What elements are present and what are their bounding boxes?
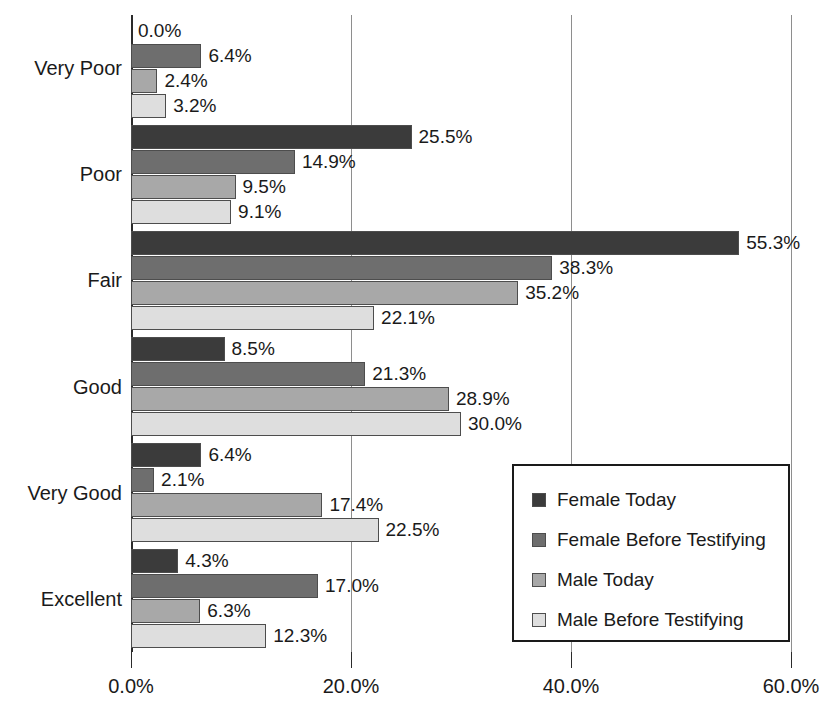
- legend-swatch-icon: [532, 493, 546, 507]
- category-label: Excellent: [2, 587, 122, 611]
- bar-group: 55.3%38.3%35.2%22.1%: [131, 231, 791, 331]
- bar-value-label: 3.2%: [173, 95, 216, 117]
- bar: [131, 175, 236, 199]
- bar-value-label: 35.2%: [525, 282, 579, 304]
- bar: [131, 44, 201, 68]
- legend-swatch-icon: [532, 613, 546, 627]
- bar: [131, 549, 178, 573]
- bar-group: 8.5%21.3%28.9%30.0%: [131, 337, 791, 437]
- bar-group: 25.5%14.9%9.5%9.1%: [131, 125, 791, 225]
- category-label: Very Good: [2, 481, 122, 505]
- bar-value-label: 22.1%: [381, 307, 435, 329]
- category-label: Good: [2, 375, 122, 399]
- bar-row: 21.3%: [131, 362, 791, 386]
- legend-swatch-icon: [532, 533, 546, 547]
- bar-group: 0.0%6.4%2.4%3.2%: [131, 19, 791, 119]
- legend-item[interactable]: Female Today: [532, 480, 788, 520]
- bar: [131, 231, 739, 255]
- bar-row: 6.4%: [131, 44, 791, 68]
- axis-tick: [791, 652, 792, 668]
- axis-tick: [131, 652, 132, 668]
- bar: [131, 443, 201, 467]
- bar-value-label: 6.4%: [208, 444, 251, 466]
- bar-value-label: 2.1%: [161, 469, 204, 491]
- legend-label: Female Today: [557, 489, 676, 511]
- axis-tick-label: 40.0%: [543, 674, 600, 698]
- bar: [131, 387, 449, 411]
- legend-item[interactable]: Female Before Testifying: [532, 520, 788, 560]
- bar-value-label: 17.4%: [329, 494, 383, 516]
- category-label: Very Poor: [2, 56, 122, 80]
- bar-row: 22.1%: [131, 306, 791, 330]
- legend-label: Male Before Testifying: [557, 609, 744, 631]
- bar: [131, 150, 295, 174]
- bar-row: 25.5%: [131, 125, 791, 149]
- bar-value-label: 30.0%: [468, 413, 522, 435]
- bar: [131, 200, 231, 224]
- legend-label: Male Today: [557, 569, 654, 591]
- bar-row: 9.1%: [131, 200, 791, 224]
- bar-row: 2.4%: [131, 69, 791, 93]
- value-axis: 0.0%20.0%40.0%60.0%: [0, 652, 837, 712]
- bar: [131, 281, 518, 305]
- bar: [131, 468, 154, 492]
- bar-value-label: 55.3%: [746, 232, 800, 254]
- bar: [131, 69, 157, 93]
- bar: [131, 306, 374, 330]
- bar-value-label: 8.5%: [232, 338, 275, 360]
- axis-tick: [351, 652, 352, 668]
- bar-row: 30.0%: [131, 412, 791, 436]
- bar-value-label: 28.9%: [456, 388, 510, 410]
- bar: [131, 412, 461, 436]
- bar-value-label: 0.0%: [138, 20, 181, 42]
- gridline-60.0%: [791, 15, 792, 652]
- bar-value-label: 9.1%: [238, 201, 281, 223]
- chart-legend: Female TodayFemale Before TestifyingMale…: [512, 464, 790, 642]
- bar-row: 8.5%: [131, 337, 791, 361]
- bar-row: 28.9%: [131, 387, 791, 411]
- bar: [131, 94, 166, 118]
- bar-row: 38.3%: [131, 256, 791, 280]
- bar-value-label: 12.3%: [273, 625, 327, 647]
- bar-row: 14.9%: [131, 150, 791, 174]
- bar-row: 9.5%: [131, 175, 791, 199]
- legend-label: Female Before Testifying: [557, 529, 766, 551]
- axis-tick-label: 20.0%: [323, 674, 380, 698]
- bar: [131, 256, 552, 280]
- category-axis-labels: Very PoorPoorFairGoodVery GoodExcellent: [0, 15, 122, 652]
- bar: [131, 337, 225, 361]
- bar-row: 0.0%: [131, 19, 791, 43]
- bar: [131, 493, 322, 517]
- category-label: Poor: [2, 162, 122, 186]
- bar: [131, 518, 379, 542]
- bar: [131, 624, 266, 648]
- bar-value-label: 6.4%: [208, 45, 251, 67]
- bar-value-label: 4.3%: [185, 550, 228, 572]
- category-label: Fair: [2, 268, 122, 292]
- bar-value-label: 38.3%: [559, 257, 613, 279]
- axis-tick-label: 60.0%: [763, 674, 820, 698]
- legend-item[interactable]: Male Before Testifying: [532, 600, 788, 640]
- bar-value-label: 14.9%: [302, 151, 356, 173]
- bar-row: 55.3%: [131, 231, 791, 255]
- bar: [131, 125, 412, 149]
- bar-chart: Very PoorPoorFairGoodVery GoodExcellent …: [0, 0, 837, 722]
- bar-value-label: 25.5%: [419, 126, 473, 148]
- bar-value-label: 21.3%: [372, 363, 426, 385]
- bar-value-label: 9.5%: [243, 176, 286, 198]
- bar-row: 35.2%: [131, 281, 791, 305]
- bar: [131, 574, 318, 598]
- legend-swatch-icon: [532, 573, 546, 587]
- bar-value-label: 2.4%: [164, 70, 207, 92]
- bar-row: 3.2%: [131, 94, 791, 118]
- axis-tick: [571, 652, 572, 668]
- bar-value-label: 22.5%: [386, 519, 440, 541]
- bar-value-label: 6.3%: [207, 600, 250, 622]
- bar: [131, 362, 365, 386]
- bar-value-label: 17.0%: [325, 575, 379, 597]
- axis-tick-label: 0.0%: [108, 674, 154, 698]
- legend-item[interactable]: Male Today: [532, 560, 788, 600]
- bar: [131, 599, 200, 623]
